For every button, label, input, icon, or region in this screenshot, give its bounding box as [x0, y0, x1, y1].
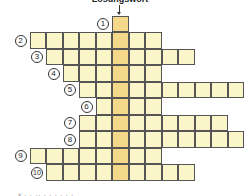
clue-number-6: 6: [81, 101, 93, 113]
crossword-cell[interactable]: [228, 131, 245, 148]
solution-cell[interactable]: [112, 49, 129, 66]
crossword-cell[interactable]: [145, 115, 162, 132]
crossword-cell[interactable]: [96, 115, 113, 132]
solution-cell[interactable]: [112, 32, 129, 49]
crossword-cell[interactable]: [30, 148, 47, 165]
clue-number-5: 5: [64, 84, 76, 96]
crossword-cell[interactable]: [162, 115, 179, 132]
crossword-cell[interactable]: [79, 164, 96, 181]
crossword-cell[interactable]: [178, 131, 195, 148]
crossword-cell[interactable]: [162, 82, 179, 99]
crossword-cell[interactable]: [129, 82, 146, 99]
crossword-cell[interactable]: [129, 148, 146, 165]
crossword-cell[interactable]: [46, 49, 63, 66]
crossword-cell[interactable]: [162, 164, 179, 181]
crossword-cell[interactable]: [145, 65, 162, 82]
solution-cell[interactable]: [112, 82, 129, 99]
crossword-cell[interactable]: [63, 65, 80, 82]
crossword-cell[interactable]: [96, 131, 113, 148]
crossword-cell[interactable]: [195, 131, 212, 148]
clue-number-10: 10: [31, 167, 43, 179]
crossword-cell[interactable]: [46, 148, 63, 165]
crossword-cell[interactable]: [79, 82, 96, 99]
crossword-cell[interactable]: [129, 115, 146, 132]
crossword-cell[interactable]: [145, 98, 162, 115]
crossword-cell[interactable]: [178, 49, 195, 66]
crossword-cell[interactable]: [96, 148, 113, 165]
crossword-cell[interactable]: [178, 115, 195, 132]
solution-cell[interactable]: [112, 148, 129, 165]
crossword-cell[interactable]: [63, 164, 80, 181]
clue-number-3: 3: [31, 51, 43, 63]
crossword-cell[interactable]: [145, 164, 162, 181]
solution-cell[interactable]: [112, 16, 129, 33]
crossword-cell[interactable]: [211, 82, 228, 99]
crossword-cell[interactable]: [96, 49, 113, 66]
crossword-cell[interactable]: [211, 115, 228, 132]
crossword-cell[interactable]: [145, 32, 162, 49]
arrow-down-icon: [119, 5, 120, 13]
crossword-cell[interactable]: [162, 131, 179, 148]
crossword-cell[interactable]: [145, 49, 162, 66]
crossword-cell[interactable]: [63, 148, 80, 165]
crossword-cell[interactable]: [96, 164, 113, 181]
crossword-cell[interactable]: [129, 49, 146, 66]
crossword-cell[interactable]: [228, 82, 245, 99]
clue-number-8: 8: [64, 134, 76, 146]
clue-number-2: 2: [15, 35, 27, 47]
crossword-cell[interactable]: [79, 32, 96, 49]
crossword-cell[interactable]: [162, 49, 179, 66]
crossword-cell[interactable]: [211, 131, 228, 148]
crossword-cell[interactable]: [129, 65, 146, 82]
crossword-cell[interactable]: [178, 82, 195, 99]
crossword-cell[interactable]: [96, 65, 113, 82]
crossword-cell[interactable]: [79, 148, 96, 165]
crossword-cell[interactable]: [96, 82, 113, 99]
crossword-cell[interactable]: [129, 98, 146, 115]
solution-cell[interactable]: [112, 98, 129, 115]
crossword-cell[interactable]: [145, 131, 162, 148]
clue-number-9: 9: [15, 150, 27, 162]
crossword-cell[interactable]: [145, 148, 162, 165]
solution-cell[interactable]: [112, 164, 129, 181]
crossword-cell[interactable]: [46, 32, 63, 49]
crossword-cell[interactable]: [195, 82, 212, 99]
crossword-cell[interactable]: [79, 49, 96, 66]
crossword-cell[interactable]: [63, 32, 80, 49]
crossword-cell[interactable]: [79, 131, 96, 148]
solution-cell[interactable]: [112, 131, 129, 148]
solution-word-label: Lösungswort: [80, 0, 160, 4]
crossword-cell[interactable]: [46, 164, 63, 181]
crossword-cell[interactable]: [178, 164, 195, 181]
solution-cell[interactable]: [112, 115, 129, 132]
crossword-cell[interactable]: [129, 32, 146, 49]
crossword-cell[interactable]: [96, 98, 113, 115]
clue-number-7: 7: [64, 117, 76, 129]
crossword-cell[interactable]: [79, 65, 96, 82]
crossword-cell[interactable]: [79, 115, 96, 132]
crossword-cell[interactable]: [30, 32, 47, 49]
clue-number-4: 4: [48, 68, 60, 80]
crossword-cell[interactable]: [195, 115, 212, 132]
crossword-cell[interactable]: [129, 131, 146, 148]
crossword-cell[interactable]: [63, 49, 80, 66]
crossword-cell[interactable]: [96, 32, 113, 49]
crossword-cell[interactable]: [129, 164, 146, 181]
crossword-cell[interactable]: [145, 82, 162, 99]
clue-text-cut-off: • · · ·· · · · · · ·: [18, 190, 74, 196]
solution-cell[interactable]: [112, 65, 129, 82]
clue-number-1: 1: [97, 18, 109, 30]
